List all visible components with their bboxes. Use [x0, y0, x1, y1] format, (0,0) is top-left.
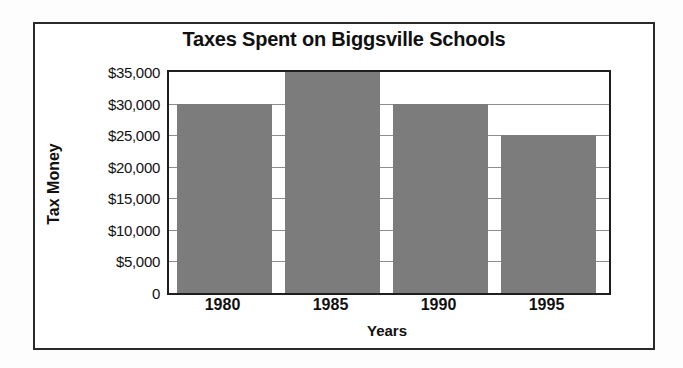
y-tick-label: 0 — [152, 285, 160, 302]
bar — [501, 135, 596, 293]
x-tick-label: 1990 — [421, 296, 457, 314]
x-axis-tick-labels: 1980198519901995 — [167, 296, 607, 320]
y-tick-label: $15,000 — [108, 190, 160, 207]
x-tick-label: 1980 — [205, 296, 241, 314]
page-background: Taxes Spent on Biggsville Schools Tax Mo… — [0, 0, 683, 368]
y-tick-label: $5,000 — [116, 253, 160, 270]
y-tick-label: $25,000 — [108, 127, 160, 144]
bar — [177, 104, 272, 293]
chart-title: Taxes Spent on Biggsville Schools — [33, 28, 655, 51]
x-tick-label: 1985 — [313, 296, 349, 314]
y-axis-title: Tax Money — [45, 124, 63, 244]
plot-inner — [169, 72, 609, 293]
y-tick-label: $35,000 — [108, 64, 160, 81]
y-tick-label: $10,000 — [108, 221, 160, 238]
x-tick-label: 1995 — [529, 296, 565, 314]
plot-area — [167, 70, 611, 295]
bar — [285, 72, 380, 293]
y-tick-label: $20,000 — [108, 158, 160, 175]
x-axis-title: Years — [167, 322, 607, 339]
y-axis-tick-labels: 0$5,000$10,000$15,000$20,000$25,000$30,0… — [72, 70, 164, 291]
y-tick-label: $30,000 — [108, 95, 160, 112]
bar — [393, 104, 488, 293]
